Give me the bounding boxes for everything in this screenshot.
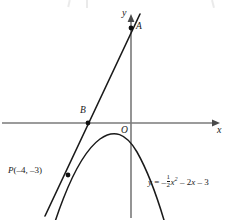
equation-exponent: 2 xyxy=(175,176,178,182)
y-axis-arrow xyxy=(128,14,135,22)
equation-lhs: y xyxy=(148,177,152,187)
point-P-marker xyxy=(66,173,71,178)
point-A-marker xyxy=(129,26,134,31)
equation-term2-variable: x xyxy=(191,177,195,187)
equation-coef-sign: – xyxy=(162,177,167,187)
point-B-marker xyxy=(86,121,91,126)
equation-term2-coefficient: – 2 xyxy=(180,177,191,187)
point-B-label: B xyxy=(80,106,86,116)
equation-coef-denominator: 2 xyxy=(167,181,171,189)
equation-coefficient-fraction: 12 xyxy=(167,174,171,189)
equation-coef-numerator: 1 xyxy=(167,174,171,181)
line-through-P-and-A xyxy=(45,14,140,216)
parabola-equation-label: y = –12x2 – 2x – 3 xyxy=(148,174,209,189)
graph-figure: y x O A B P(–4, –3) y = –12x2 – 2x – 3 xyxy=(0,0,228,220)
point-A-label: A xyxy=(136,22,142,32)
point-P-label-coords: (–4, –3) xyxy=(14,165,43,175)
origin-label: O xyxy=(121,126,128,136)
y-axis-label: y xyxy=(122,8,126,18)
equation-term3-constant: – 3 xyxy=(197,177,208,187)
x-axis-label: x xyxy=(217,125,221,135)
equation-equals: = xyxy=(154,177,159,187)
point-P-label: P(–4, –3) xyxy=(8,166,42,175)
